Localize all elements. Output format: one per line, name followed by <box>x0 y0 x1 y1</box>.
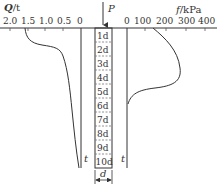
left-tick-label: 0.5 <box>57 16 72 26</box>
right-tick-label: 200 <box>156 16 173 26</box>
pile-segment-label: 5d <box>97 87 109 97</box>
right-curve-label: t <box>121 153 126 164</box>
right-tick-label: 400 <box>198 16 215 26</box>
pile-segment-label: 2d <box>97 45 109 55</box>
right-axis-ticks: 0 100 200 300 400 <box>124 16 215 26</box>
svg-text:Q/t: Q/t <box>4 2 20 13</box>
width-label: d <box>100 168 106 179</box>
load-label: P <box>107 3 115 14</box>
svg-text:f/kPa: f/kPa <box>175 4 201 15</box>
pile-segment-label: 1d <box>97 31 109 41</box>
pile-segment-label: 8d <box>97 129 109 139</box>
left-tick-label: 1.5 <box>21 16 36 26</box>
right-axis-title: f/kPa <box>175 4 201 15</box>
pile-width-dimension: d <box>95 168 112 184</box>
left-tick-label: 2.0 <box>3 16 18 26</box>
right-tick-label: 100 <box>134 16 151 26</box>
left-tick-label: 0 <box>77 16 83 26</box>
left-curve-label: t <box>84 153 89 164</box>
right-tick-label: 0 <box>124 16 130 26</box>
pile-segment-label: 6d <box>97 101 109 111</box>
left-axis-title: Q/t <box>4 2 20 13</box>
pile: 1d 2d 3d 4d 5d 6d 7d 8d 9d 10d <box>95 28 113 168</box>
right-tick-label: 300 <box>178 16 195 26</box>
load-arrow: P <box>103 2 115 25</box>
pile-segment-label: 7d <box>97 115 109 125</box>
left-axis-ticks: 2.0 1.5 1.0 0.5 0 <box>3 16 83 26</box>
pile-segment-label: 3d <box>97 59 109 69</box>
pile-diagram: Q/t f/kPa 2.0 1.5 1.0 0.5 0 0 100 200 30… <box>0 0 217 186</box>
axial-load-curve <box>25 28 79 168</box>
pile-segment-label: 4d <box>97 73 109 83</box>
skin-friction-curve <box>128 28 180 104</box>
left-tick-label: 1.0 <box>39 16 54 26</box>
pile-segment-label: 10d <box>96 157 113 167</box>
pile-segment-label: 9d <box>97 143 109 153</box>
